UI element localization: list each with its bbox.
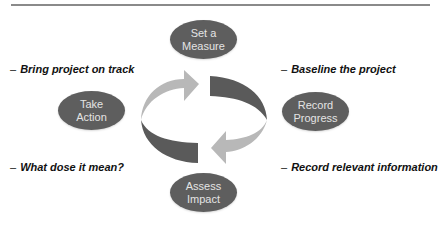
node-label-line2: Progress: [293, 112, 337, 125]
note-text: Bring project on track: [20, 63, 134, 75]
note-bottom-right: –Record relevant information: [281, 161, 438, 173]
node-label-line2: Action: [76, 111, 107, 124]
node-record-progress: Record Progress: [282, 92, 349, 131]
node-label-line2: Impact: [187, 193, 220, 206]
arrow-light-top-left: [141, 70, 199, 120]
node-label-line1: Assess: [186, 180, 221, 193]
note-top-left: –Bring project on track: [10, 63, 134, 75]
note-top-right: –Baseline the project: [281, 63, 396, 75]
arrow-dark-bottom-left: [141, 120, 198, 163]
note-dash: –: [10, 63, 16, 75]
note-text: Baseline the project: [291, 63, 396, 75]
node-assess-impact: Assess Impact: [170, 173, 237, 212]
note-text: Record relevant information: [291, 161, 438, 173]
node-take-action: Take Action: [58, 91, 125, 130]
node-label-line1: Set a: [191, 27, 217, 40]
note-dash: –: [281, 63, 287, 75]
node-set-measure: Set a Measure: [170, 20, 237, 59]
note-dash: –: [10, 161, 16, 173]
node-label-line1: Record: [298, 99, 333, 112]
note-dash: –: [281, 161, 287, 173]
node-label-line2: Measure: [182, 40, 225, 53]
note-bottom-left: –What dose it mean?: [10, 161, 124, 173]
arrow-light-bottom-right: [211, 120, 267, 164]
node-label-line1: Take: [80, 98, 103, 111]
note-text: What dose it mean?: [20, 161, 124, 173]
arrow-dark-top-right: [210, 76, 267, 120]
